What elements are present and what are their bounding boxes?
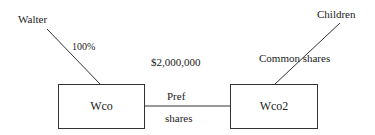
walter-to-wco-line: [47, 29, 100, 84]
ownership-percent-label: 100%: [72, 42, 95, 52]
children-label: Children: [317, 9, 356, 20]
wco2-label: Wco2: [260, 99, 289, 114]
common-shares-label: Common shares: [259, 53, 330, 64]
wco-box: Wco: [58, 84, 145, 129]
wco2-box: Wco2: [230, 84, 318, 129]
shares-label: shares: [165, 113, 193, 124]
pref-label: Pref: [167, 91, 185, 102]
walter-label: Walter: [18, 14, 47, 25]
wco-label: Wco: [90, 99, 113, 114]
amount-label: $2,000,000: [151, 57, 201, 68]
